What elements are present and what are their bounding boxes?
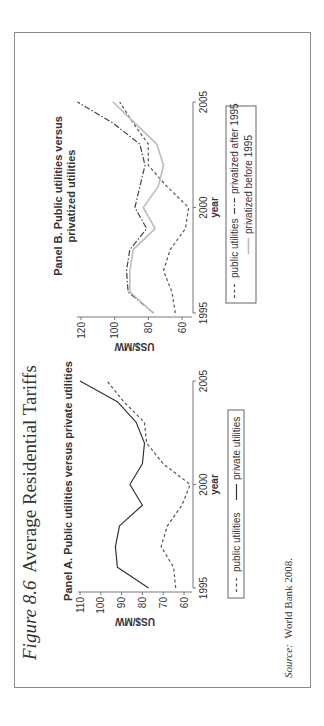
y-tick-label: 80 <box>143 322 154 334</box>
legend-entry: privatized after 1995 <box>229 103 240 194</box>
legend-entry: private utilities <box>231 417 242 480</box>
panel-title: Panel A. Public utilities versus private… <box>62 361 74 601</box>
y-tick-label: 60 <box>179 597 190 609</box>
x-tick-label: 2005 <box>198 369 209 392</box>
y-tick-label: 70 <box>158 597 169 609</box>
series-line-public-utilities <box>107 381 190 588</box>
y-tick-label: 80 <box>137 597 148 609</box>
y-tick-label: 100 <box>95 597 106 614</box>
source-note: Source: World Bank 2008. <box>282 558 294 678</box>
y-axis-label: US$/MW <box>114 616 155 627</box>
series-line-private-utilities <box>80 381 149 588</box>
figure-canvas: Figure 8.6 Average Residential Tariffs P… <box>0 0 324 726</box>
legend-entry: privatized before 1995 <box>243 135 254 234</box>
x-tick-label: 2000 <box>198 473 209 496</box>
series-line-privatized-before-1995 <box>113 102 164 313</box>
y-tick-label: 120 <box>76 322 87 339</box>
x-tick-label: 1995 <box>198 301 209 324</box>
x-axis-label: year <box>209 197 220 218</box>
x-axis-label: year <box>209 474 220 495</box>
figure-caption: Figure 8.6 Average Residential Tariffs <box>19 365 40 661</box>
y-tick-label: 90 <box>116 597 127 609</box>
y-tick-label: 60 <box>177 322 188 334</box>
x-tick-label: 2005 <box>198 90 209 113</box>
panel-title: Panel B. Public utilities versusprivatiz… <box>52 116 77 276</box>
y-axis-label: US$/MW <box>114 341 155 352</box>
legend-entry: public utilities <box>229 219 240 278</box>
panel-a-chart: Panel A. Public utilities versus private… <box>62 361 244 627</box>
x-tick-label: 2000 <box>198 196 209 219</box>
series-line-privatized-after-1995 <box>78 102 154 313</box>
x-tick-label: 1995 <box>198 576 209 599</box>
legend-entry: public utilities <box>231 513 242 572</box>
rotated-page: Figure 8.6 Average Residential Tariffs P… <box>0 0 324 726</box>
y-tick-label: 110 <box>75 597 86 613</box>
y-tick-label: 100 <box>109 322 120 339</box>
panel-b-chart: Panel B. Public utilities versusprivatiz… <box>52 90 256 352</box>
